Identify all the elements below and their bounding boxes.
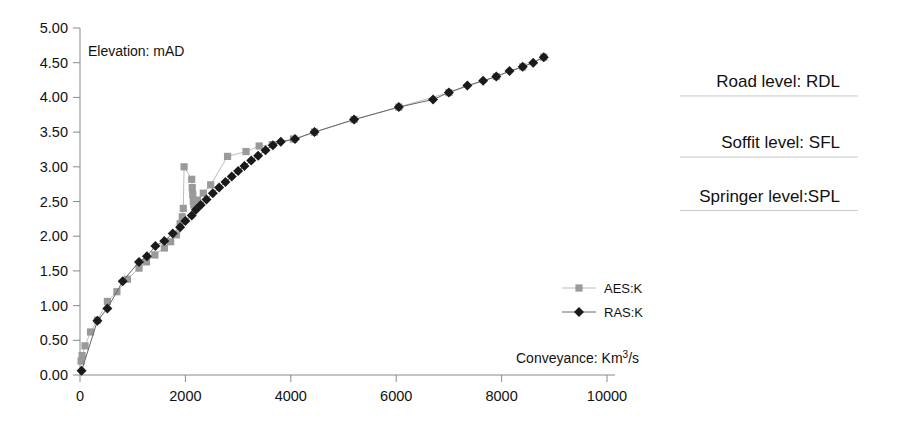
y-tick-label: 5.00 bbox=[40, 20, 68, 36]
series-line bbox=[82, 57, 544, 371]
data-point-square bbox=[188, 176, 195, 183]
x-axis-ticks: 0200040006000800010000 bbox=[76, 375, 627, 404]
y-tick-label: 0.00 bbox=[40, 367, 68, 383]
data-point-square bbox=[79, 352, 86, 359]
data-point-diamond bbox=[505, 66, 515, 76]
x-tick-label: 10000 bbox=[587, 388, 627, 404]
y-tick-label: 4.50 bbox=[40, 55, 68, 71]
x-tick-label: 0 bbox=[76, 388, 84, 404]
data-point-square bbox=[224, 153, 231, 160]
y-tick-label: 3.00 bbox=[40, 159, 68, 175]
y-axis-title: Elevation: mAD bbox=[88, 43, 184, 59]
data-point-square bbox=[207, 181, 214, 188]
data-point-diamond bbox=[77, 366, 87, 376]
y-tick-label: 1.50 bbox=[40, 263, 68, 279]
x-tick-label: 8000 bbox=[485, 388, 517, 404]
annotation-label-springer-level: Springer level:SPL bbox=[699, 187, 840, 206]
x-tick-label: 2000 bbox=[169, 388, 201, 404]
legend-label-ras-k: RAS:K bbox=[604, 305, 643, 320]
y-axis-ticks: 0.000.501.001.502.002.503.003.504.004.50… bbox=[40, 20, 80, 383]
x-tick-label: 4000 bbox=[275, 388, 307, 404]
data-point-square bbox=[81, 342, 88, 349]
y-tick-label: 0.50 bbox=[40, 332, 68, 348]
data-point-square bbox=[575, 284, 582, 291]
annotation-label-road-level: Road level: RDL bbox=[716, 72, 840, 91]
data-point-square bbox=[256, 142, 263, 149]
data-point-square bbox=[180, 205, 187, 212]
data-point-square bbox=[242, 148, 249, 155]
annotation-label-soffit-level: Soffit level: SFL bbox=[721, 133, 840, 152]
data-point-square bbox=[189, 184, 196, 191]
axes-group bbox=[80, 28, 615, 375]
x-tick-label: 6000 bbox=[380, 388, 412, 404]
y-tick-label: 1.00 bbox=[40, 298, 68, 314]
annotation-layer: Road level: RDLSoffit level: SFLSpringer… bbox=[680, 72, 858, 211]
y-tick-label: 2.00 bbox=[40, 228, 68, 244]
data-point-diamond bbox=[478, 76, 488, 86]
series-layer bbox=[77, 52, 549, 376]
series-line bbox=[81, 57, 544, 361]
series-ras-k bbox=[77, 52, 549, 376]
conveyance-elevation-chart: 0.000.501.001.502.002.503.003.504.004.50… bbox=[0, 0, 904, 436]
legend-label-aes-k: AES:K bbox=[604, 281, 643, 296]
data-point-diamond bbox=[150, 241, 160, 251]
data-point-diamond bbox=[528, 58, 538, 68]
data-point-square bbox=[180, 163, 187, 170]
data-point-square bbox=[151, 251, 158, 258]
x-axis-title: Conveyance: Km3/s bbox=[516, 349, 639, 366]
chart-legend: AES:KRAS:K bbox=[562, 281, 643, 320]
series-aes-k bbox=[77, 54, 547, 365]
data-point-diamond bbox=[462, 81, 472, 91]
y-tick-label: 4.00 bbox=[40, 89, 68, 105]
y-tick-label: 2.50 bbox=[40, 194, 68, 210]
data-point-diamond bbox=[574, 307, 584, 317]
y-tick-label: 3.50 bbox=[40, 124, 68, 140]
